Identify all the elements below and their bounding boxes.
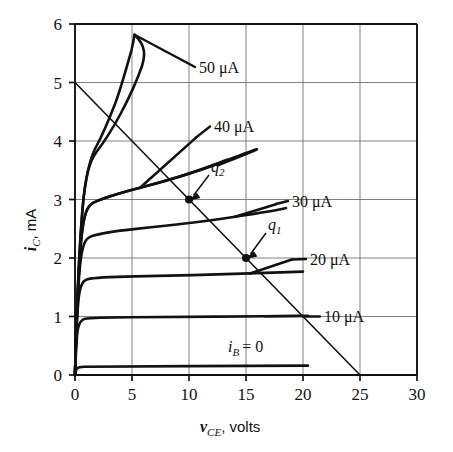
ytick-label-0: 0: [54, 366, 63, 385]
ytick-label-1: 1: [54, 308, 63, 327]
label-q1-subscript: 1: [276, 224, 282, 236]
xtick-label-10: 10: [181, 385, 198, 404]
xtick-label-30: 30: [409, 385, 426, 404]
ytick-label-2: 2: [54, 249, 63, 268]
ytick-label-3: 3: [54, 191, 63, 210]
ytick-label-5: 5: [54, 74, 63, 93]
label-q2-subscript: 2: [219, 166, 225, 178]
label-20ua: 20 μA: [310, 251, 351, 269]
xtick-label-25: 25: [352, 385, 369, 404]
label-q2-symbol: q: [211, 158, 219, 176]
label-50ua: 50 μA: [199, 59, 240, 77]
label-ib-zero-rest: = 0: [242, 338, 263, 355]
label-q1-symbol: q: [268, 216, 276, 234]
xtick-label-20: 20: [295, 385, 312, 404]
ytick-label-6: 6: [54, 15, 63, 34]
figure-container: 0 5 10 15 20 25 30 0 1 2 3 4 5 6 vCE, vo…: [0, 0, 453, 452]
xtick-label-0: 0: [71, 385, 80, 404]
xtick-label-15: 15: [238, 385, 255, 404]
x-axis-title-rest: , volts: [221, 418, 260, 435]
xtick-label-5: 5: [128, 385, 137, 404]
label-10ua: 10 μA: [324, 308, 365, 326]
label-30ua: 30 μA: [292, 193, 333, 211]
leader-20ua: [292, 259, 306, 260]
ytick-label-4: 4: [54, 132, 63, 151]
x-axis-title-subscript: CE: [207, 426, 221, 438]
y-axis-title-rest: , mA: [22, 209, 39, 240]
label-40ua: 40 μA: [214, 118, 255, 136]
label-ib-zero-subscript: B: [232, 346, 239, 358]
transistor-characteristic-chart: 0 5 10 15 20 25 30 0 1 2 3 4 5 6 vCE, vo…: [0, 0, 453, 452]
